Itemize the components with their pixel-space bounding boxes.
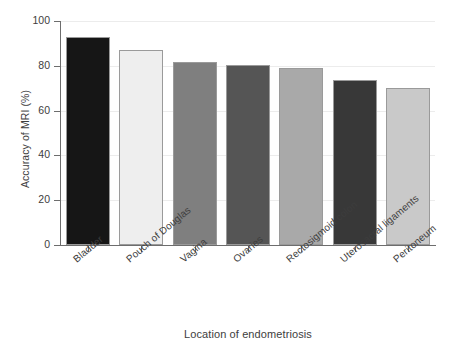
- y-axis-tick: [54, 155, 60, 156]
- plot-area: [61, 21, 435, 245]
- y-axis-tick-label: 80: [18, 60, 50, 71]
- y-axis-tick-label: 40: [18, 149, 50, 160]
- y-axis-tick-label: 100: [18, 15, 50, 26]
- y-axis-tick-label: 20: [18, 194, 50, 205]
- y-axis-tick: [54, 66, 60, 67]
- y-axis-tick-label: 60: [18, 105, 50, 116]
- bar: [279, 68, 323, 245]
- bar: [226, 65, 270, 245]
- y-axis-tick: [54, 200, 60, 201]
- y-axis-tick: [54, 111, 60, 112]
- y-axis-tick-label: 0: [18, 239, 50, 250]
- bar: [66, 37, 110, 245]
- gridline: [61, 21, 435, 22]
- y-axis-tick: [54, 21, 60, 22]
- bar-chart-figure: Accuracy of MRI (%) 020406080100 Bladder…: [0, 0, 451, 350]
- bar: [119, 50, 163, 245]
- x-axis-title: Location of endometriosis: [61, 328, 435, 340]
- y-axis-tick: [54, 245, 60, 246]
